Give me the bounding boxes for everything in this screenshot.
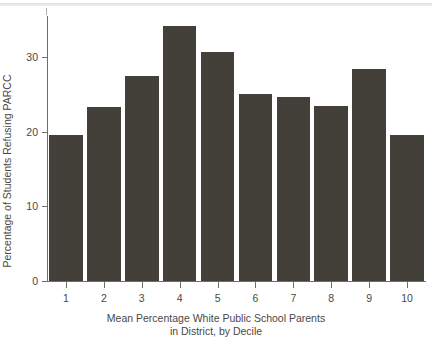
bar <box>87 107 121 281</box>
x-axis-tick-label: 8 <box>328 292 334 304</box>
x-axis-tick <box>293 282 294 288</box>
x-axis-tick <box>369 282 370 288</box>
bar <box>277 97 311 281</box>
bar <box>49 135 83 281</box>
bar <box>239 94 273 281</box>
x-axis-tick <box>255 282 256 288</box>
scan-artifact-mark <box>46 8 47 15</box>
bar <box>201 52 235 281</box>
y-axis-tick-label: 20 <box>26 126 38 138</box>
x-axis-title-line-2: in District, by Decile <box>0 325 432 338</box>
y-axis-tick-label: 30 <box>26 51 38 63</box>
plot-area: 010203012345678910 <box>47 16 426 282</box>
scan-artifact-strip <box>0 3 432 6</box>
x-axis-tick <box>331 282 332 288</box>
bar-chart-figure: Percentage of Students Refusing PARCC 01… <box>0 0 432 342</box>
y-axis-tick-label: 0 <box>32 275 38 287</box>
x-axis-tick-label: 3 <box>139 292 145 304</box>
x-axis-tick-label: 2 <box>101 292 107 304</box>
x-axis-tick <box>142 282 143 288</box>
x-axis-tick-label: 10 <box>401 292 413 304</box>
y-axis-title-text: Percentage of Students Refusing PARCC <box>1 0 13 342</box>
bar <box>314 106 348 281</box>
x-axis-tick <box>66 282 67 288</box>
bar <box>125 76 159 281</box>
x-axis-title-line-1: Mean Percentage White Public School Pare… <box>0 312 432 325</box>
y-axis-tick <box>42 281 47 282</box>
x-axis-tick <box>180 282 181 288</box>
bar <box>352 69 386 281</box>
x-axis-tick-label: 4 <box>177 292 183 304</box>
x-axis-tick-label: 7 <box>290 292 296 304</box>
x-axis-tick-label: 6 <box>253 292 259 304</box>
x-axis-tick <box>407 282 408 288</box>
y-axis-tick <box>42 132 47 133</box>
y-axis-line <box>47 16 48 282</box>
x-axis-tick-label: 5 <box>215 292 221 304</box>
x-axis-tick <box>104 282 105 288</box>
bar <box>390 135 424 281</box>
x-axis-tick-label: 9 <box>366 292 372 304</box>
y-axis-tick-label: 10 <box>26 200 38 212</box>
x-axis-title: Mean Percentage White Public School Pare… <box>0 312 432 338</box>
bar <box>163 26 197 281</box>
x-axis-tick <box>218 282 219 288</box>
x-axis-tick-label: 1 <box>63 292 69 304</box>
y-axis-tick <box>42 206 47 207</box>
y-axis-tick <box>42 57 47 58</box>
